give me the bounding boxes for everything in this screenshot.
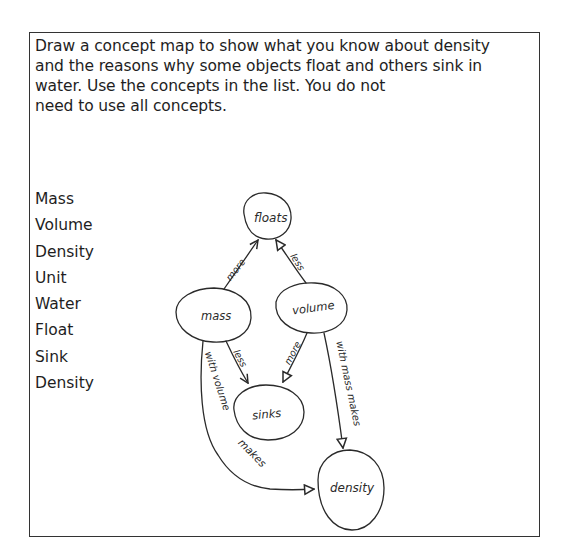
link-volume-floats: less — [276, 240, 307, 283]
node-volume: volume — [276, 283, 347, 333]
node-floats: floats — [244, 193, 291, 239]
link-mass-sinks: less — [226, 341, 250, 383]
svg-text:density: density — [330, 481, 375, 495]
hand-drawn-concept-map: floats mass volume sinks density more le… — [0, 0, 567, 558]
link-volume-sinks: more — [282, 333, 307, 382]
svg-text:floats: floats — [254, 211, 287, 225]
svg-text:sinks: sinks — [252, 406, 282, 422]
node-density: density — [318, 450, 384, 530]
node-mass: mass — [176, 288, 251, 342]
svg-text:makes: makes — [236, 436, 269, 469]
link-mass-floats: more — [223, 240, 258, 289]
svg-text:volume: volume — [291, 298, 335, 318]
node-sinks: sinks — [234, 385, 304, 440]
svg-text:more: more — [282, 339, 303, 366]
svg-text:mass: mass — [201, 309, 231, 323]
svg-text:with volume: with volume — [203, 350, 232, 412]
link-volume-density: with mass makes — [324, 333, 363, 448]
